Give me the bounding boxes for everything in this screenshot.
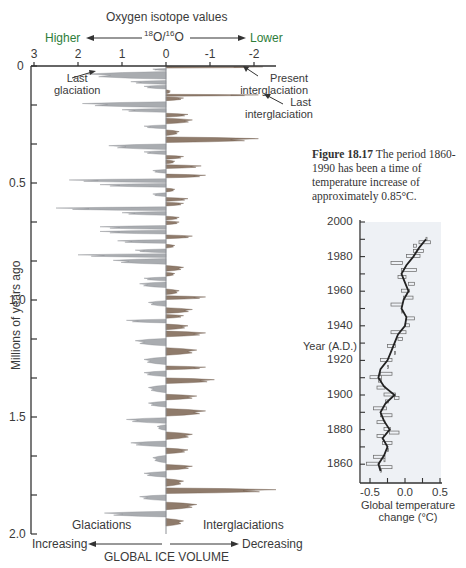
higher-label: Higher <box>45 31 80 45</box>
y-tick-label: 0 <box>17 59 24 73</box>
temp-y-tick-label: 1860 <box>327 457 353 469</box>
temp-y-tick-label: 1880 <box>327 423 353 435</box>
annotation-present: Present interglaciation <box>238 72 308 96</box>
x-tick-label: -1 <box>204 47 216 61</box>
temp-x-tick-label: -0.5 <box>359 486 381 498</box>
x-tick-label: 0 <box>160 47 172 61</box>
temp-x-tick-label: 0.0 <box>394 486 416 498</box>
arrow-right-icon <box>238 35 246 41</box>
temp-x-axis-label: Global temperature change (°C) <box>358 499 458 523</box>
temp-y-tick-label: 1960 <box>327 284 353 296</box>
caption-label: Figure 18.17 <box>312 148 373 160</box>
ratio-label: 18O/16O <box>144 29 184 44</box>
glaciations-label: Glaciations <box>72 518 131 532</box>
isotope-title: Oxygen isotope values <box>106 10 227 24</box>
y-tick-label: 2.0 <box>9 527 26 541</box>
x-tick-label: 1 <box>116 47 128 61</box>
y-axis-label: Millions of years ago <box>9 261 23 370</box>
increasing-label: Increasing <box>32 537 87 551</box>
axis-ticks <box>31 62 254 534</box>
temp-plot-bg <box>361 222 441 483</box>
ice-volume-label: GLOBAL ICE VOLUME <box>104 550 229 564</box>
x-tick-label: 3 <box>28 47 40 61</box>
annotation-last-glaciation: Last glaciation <box>54 72 100 96</box>
temp-y-tick-label: 1900 <box>327 388 353 400</box>
arrow-left-icon <box>88 541 96 547</box>
arrow-left-icon <box>86 35 94 41</box>
temp-x-tick-label: 0.5 <box>429 486 451 498</box>
y-tick-label: 0.5 <box>9 176 26 190</box>
annotation-last-inter: Last interglaciation <box>245 96 311 120</box>
figure-caption: Figure 18.17 The period 1860-1990 has be… <box>312 147 466 203</box>
arrow-right-icon <box>231 541 239 547</box>
isotope-bars <box>56 66 276 534</box>
lower-label: Lower <box>250 31 283 45</box>
temp-y-axis-label: Year (A.D.) <box>303 340 357 352</box>
temp-y-tick-label: 1940 <box>327 319 353 331</box>
y-tick-label: 1.5 <box>9 410 26 424</box>
temp-y-tick-label: 1920 <box>327 353 353 365</box>
x-tick-label: 2 <box>72 47 84 61</box>
interglaciations-label: Interglaciations <box>203 518 284 532</box>
x-tick-label: -2 <box>248 47 260 61</box>
temp-y-tick-label: 1980 <box>327 250 353 262</box>
decreasing-label: Decreasing <box>242 537 303 551</box>
temp-y-tick-label: 2000 <box>327 215 353 227</box>
